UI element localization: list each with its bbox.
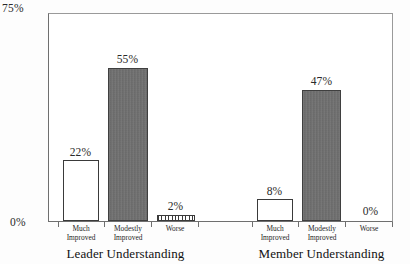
tick-label-line1: Worse xyxy=(336,225,402,234)
plot-area xyxy=(48,13,393,222)
tick-label-line1: Worse xyxy=(142,225,208,234)
bar-leader-worse xyxy=(157,215,195,221)
bar-member-much-improved xyxy=(257,199,293,221)
bar-leader-modestly-improved xyxy=(108,68,148,221)
group-title-leader: Leader Understanding xyxy=(48,246,203,262)
tick-label-member-worse: Worse xyxy=(336,225,402,234)
value-label-member-much-improved: 8% xyxy=(242,185,307,197)
value-label-member-worse: 0% xyxy=(338,205,403,217)
bar-member-modestly-improved xyxy=(302,90,341,221)
tick-label-line2: Improved xyxy=(95,234,161,243)
value-label-leader-worse: 2% xyxy=(143,200,208,212)
y-axis-max-label: 75% xyxy=(2,2,24,14)
bar-leader-much-improved xyxy=(63,160,99,221)
value-label-leader-modestly-improved: 55% xyxy=(95,53,160,65)
bar-chart: 75% 0% 22% 55% 2% 8% 47% 0% Much Improve… xyxy=(0,0,410,264)
tick-label-leader-worse: Worse xyxy=(142,225,208,234)
tick-label-line2: Improved xyxy=(289,234,355,243)
value-label-leader-much-improved: 22% xyxy=(48,146,113,158)
value-label-member-modestly-improved: 47% xyxy=(289,75,354,87)
y-axis-min-label: 0% xyxy=(10,216,26,228)
group-title-member: Member Understanding xyxy=(240,246,403,262)
